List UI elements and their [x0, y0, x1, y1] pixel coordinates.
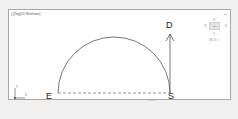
- point-label-s: S: [168, 91, 174, 101]
- ucs-x-label: X: [25, 93, 27, 97]
- semicircle-arc[interactable]: [58, 37, 170, 93]
- ucs-y-label: Y: [16, 85, 18, 89]
- ucs-icon[interactable]: Y X: [13, 85, 29, 99]
- annotation-note: ———: [147, 98, 156, 102]
- point-label-d: D: [166, 20, 173, 30]
- point-label-e: E: [46, 91, 52, 101]
- drawing-viewport[interactable]: [-][Top][2D Wireframe] ▪▪▪ N W TOP E S W…: [8, 9, 231, 100]
- drawing-geometry: [9, 10, 232, 101]
